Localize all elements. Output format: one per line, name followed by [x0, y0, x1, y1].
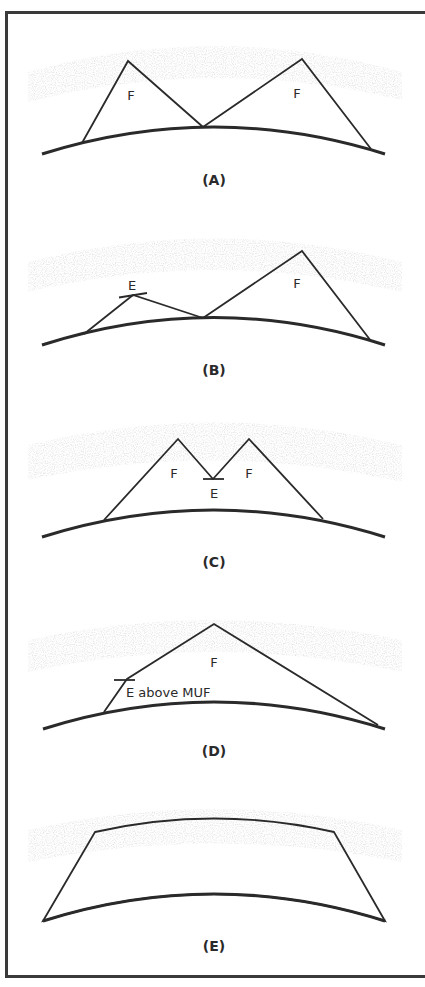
panel-d: F E above MUF (D) — [28, 620, 402, 759]
earth-surface — [43, 894, 385, 921]
ionosphere-layer — [28, 239, 402, 293]
earth-surface — [43, 702, 385, 729]
f-layer-label: F — [293, 86, 300, 101]
ionosphere-layer — [28, 423, 402, 483]
earth-surface — [42, 318, 385, 346]
panel-caption: (A) — [202, 172, 226, 188]
f-layer-label: F — [245, 466, 252, 481]
e-layer-label: E — [128, 278, 136, 293]
e-layer-marker — [119, 293, 147, 298]
f-layer-label: F — [127, 88, 134, 103]
f-layer-label: F — [293, 276, 300, 291]
panel-e: (E) — [28, 809, 402, 954]
panel-caption: (C) — [202, 554, 225, 570]
panel-c: F F E (C) — [28, 423, 402, 571]
panel-caption: (B) — [202, 362, 225, 378]
e-above-muf-label: E above MUF — [126, 685, 211, 700]
panel-caption: (D) — [202, 743, 226, 759]
panel-caption: (E) — [203, 938, 225, 954]
panel-a: F F (A) — [28, 46, 402, 188]
ionosphere-layer — [28, 46, 402, 102]
panel-b: E F (B) — [28, 239, 402, 379]
f-layer-label: F — [170, 466, 177, 481]
f-layer-label: F — [210, 655, 217, 670]
e-layer-label: E — [210, 486, 218, 501]
earth-surface — [42, 510, 385, 537]
earth-surface — [42, 127, 385, 154]
